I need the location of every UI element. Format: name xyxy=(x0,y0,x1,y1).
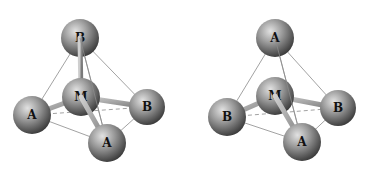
atom-label: A xyxy=(101,136,112,150)
atom-label: B xyxy=(333,101,343,115)
atom-right: B xyxy=(320,90,356,126)
atom-bottom: A xyxy=(283,123,321,161)
atom-label: A xyxy=(26,108,37,122)
atom-label: A xyxy=(296,135,307,149)
molecule-right: ABBMA xyxy=(208,19,356,161)
molecule-left: BABMA xyxy=(13,19,165,162)
atom-left: A xyxy=(13,96,51,134)
atom-label: B xyxy=(142,100,152,114)
atom-label: B xyxy=(222,110,232,124)
atom-bottom: A xyxy=(88,124,126,162)
atom-left: B xyxy=(208,98,246,136)
atom-right: B xyxy=(129,89,165,125)
molecule-diagram: BABMA ABBMA xyxy=(0,0,369,171)
